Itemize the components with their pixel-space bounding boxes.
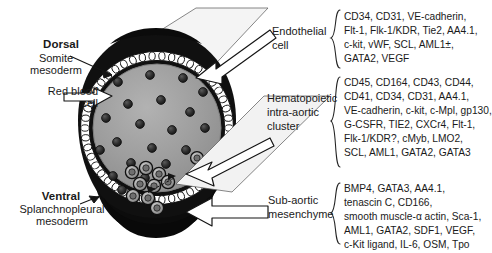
cluster-cell-nucleus bbox=[143, 165, 149, 171]
red-blood-cell bbox=[182, 146, 191, 155]
red-blood-cell bbox=[168, 126, 177, 135]
red-blood-cell bbox=[96, 146, 105, 155]
red-blood-cell bbox=[136, 120, 145, 129]
red-blood-cell bbox=[102, 114, 111, 123]
cluster-cell-nucleus bbox=[156, 171, 162, 177]
red-blood-cell bbox=[199, 88, 208, 97]
callout-label-endothelial-cell: Endothelial cell bbox=[272, 25, 334, 53]
circulating-cluster-cell-nucleus bbox=[194, 155, 200, 161]
callout-label-sub-aortic-mesenchyme: Sub-aortic mesenchyme bbox=[268, 194, 334, 222]
splanchnopleural-mesoderm-label: Splanchnopleural mesoderm bbox=[0, 203, 124, 228]
cluster-cell-nucleus bbox=[129, 169, 135, 175]
red-blood-cell bbox=[114, 78, 123, 87]
red-blood-cell bbox=[157, 96, 166, 105]
marker-list-endothelial-cell: CD34, CD31, VE-cadherin, Flt-1, Flk-1/KD… bbox=[344, 10, 490, 66]
marker-list-hematopoietic-cluster: CD45, CD164, CD43, CD44, CD41, CD34, CD3… bbox=[344, 76, 492, 160]
dorsal-label: Dorsal bbox=[18, 38, 104, 51]
marker-list-sub-aortic-mesenchyme: BMP4, GATA3, AA4.1, tenascin C, CD166, s… bbox=[344, 182, 490, 252]
red-blood-cell bbox=[201, 124, 210, 133]
ventral-label: Ventral bbox=[16, 190, 106, 203]
cluster-cell-nucleus bbox=[145, 195, 151, 201]
red-blood-cell bbox=[179, 74, 188, 83]
cluster-cell-nucleus bbox=[137, 181, 143, 187]
red-blood-cell bbox=[118, 186, 127, 195]
red-blood-cell bbox=[162, 160, 171, 169]
cluster-cell-nucleus bbox=[154, 205, 160, 211]
red-blood-cell bbox=[109, 172, 118, 181]
cluster-cell-nucleus bbox=[130, 193, 136, 199]
callout-label-hematopoietic-cluster: Hematopoietic intra-aortic cluster bbox=[267, 92, 337, 133]
red-blood-cell bbox=[113, 138, 122, 147]
red-blood-cell-label: Red blood cell bbox=[2, 85, 98, 110]
red-blood-cell bbox=[148, 144, 157, 153]
red-blood-cell bbox=[186, 108, 195, 117]
red-blood-cell bbox=[146, 71, 155, 80]
red-blood-cell bbox=[124, 100, 133, 109]
somite-mesoderm-label: Somite mesoderm bbox=[6, 52, 106, 77]
